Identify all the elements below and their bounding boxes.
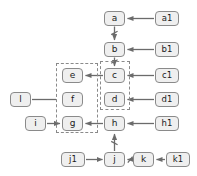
node-h[interactable]: h [104,116,125,131]
node-j[interactable]: j [104,152,125,167]
node-d[interactable]: d [104,92,125,107]
node-a[interactable]: a [104,11,125,26]
node-e[interactable]: e [62,68,83,83]
node-h1[interactable]: h1 [155,116,179,131]
node-b1[interactable]: b1 [155,42,179,57]
node-c1[interactable]: c1 [155,68,179,83]
node-d1[interactable]: d1 [155,92,179,107]
node-i[interactable]: i [25,116,46,131]
node-f[interactable]: f [62,92,83,107]
node-g[interactable]: g [62,116,83,131]
edge-layer [0,0,197,176]
node-a1[interactable]: a1 [155,11,179,26]
node-c[interactable]: c [104,68,125,83]
node-k[interactable]: k [133,152,154,167]
diagram-canvas: a a1 b b1 e c c1 l f d d1 i g h h1 j1 j … [0,0,197,176]
node-j1[interactable]: j1 [61,152,85,167]
node-l[interactable]: l [10,92,31,107]
node-b[interactable]: b [104,42,125,57]
node-k1[interactable]: k1 [166,152,190,167]
